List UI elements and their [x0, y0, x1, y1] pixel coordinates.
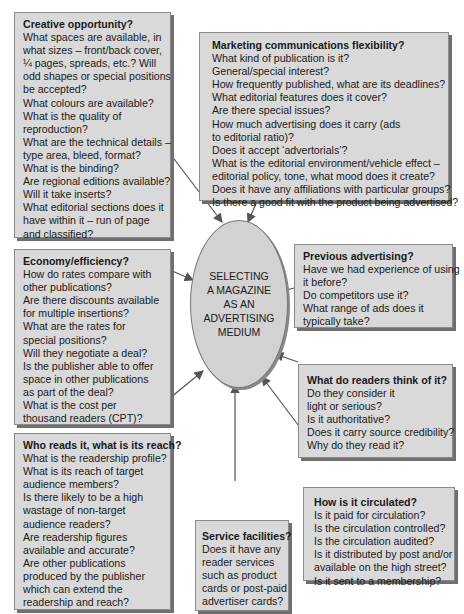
box-line: special positions?: [23, 334, 164, 347]
box-line: Is there a good fit with the product bei…: [212, 196, 442, 209]
box-title: Service facilities?: [202, 530, 282, 543]
box-line: Is it distributed by post and/or: [314, 548, 448, 561]
box-line: What editorial sections does it: [23, 201, 164, 214]
box-line: available and accurate?: [23, 544, 164, 557]
box-line: What is the readership profile?: [23, 452, 164, 465]
box-line: thousand readers (CPT)?: [23, 412, 164, 425]
box-line: Does it have any affiliations with parti…: [212, 183, 442, 196]
box-line: What is the cost per: [23, 399, 164, 412]
box-line: What kind of publication is it?: [212, 52, 442, 65]
box-line: Will they negotiate a deal?: [23, 347, 164, 360]
box-line: Is it sent to a membership?: [314, 575, 448, 588]
previous-advertising-box: Previous advertising? Have we had experi…: [294, 244, 453, 328]
box-line: type area, bleed, format?: [23, 149, 164, 162]
box-line: What is the editorial environment/vehicl…: [212, 157, 442, 170]
box-line: Have we had experience of using: [303, 263, 446, 276]
box-line: Is there likely to be a high: [23, 491, 164, 504]
box-line: What is the binding?: [23, 162, 164, 175]
box-line: it before?: [303, 276, 446, 289]
box-line: Does it carry source credibility?: [307, 426, 446, 439]
box-line: odd shapes or special positions: [23, 70, 164, 83]
box-line: Do they consider it: [307, 387, 446, 400]
box-line: which can extend the: [23, 583, 164, 596]
box-line: and classified?: [23, 228, 164, 241]
readership-reach-box: Who reads it, what is its reach? What is…: [14, 433, 171, 610]
box-line: Will it take inserts?: [23, 188, 164, 201]
economy-efficiency-box: Economy/efficiency? How do rates compare…: [14, 249, 171, 425]
box-title: Marketing communications flexibility?: [212, 39, 442, 52]
box-line: editorial policy, tone, what mood does i…: [212, 170, 442, 183]
box-line: for multiple insertions?: [23, 307, 164, 320]
box-line: Is it authoritative?: [307, 413, 446, 426]
box-line: be accepted?: [23, 83, 164, 96]
box-line: Is the publisher able to offer: [23, 360, 164, 373]
box-line: General/special interest?: [212, 65, 442, 78]
box-line: Are other publications: [23, 557, 164, 570]
center-line: SELECTING: [209, 269, 269, 283]
box-line: Does it have any: [202, 543, 282, 556]
box-title: How is it circulated?: [314, 496, 448, 509]
readers-opinion-box: What do readers think of it? Do they con…: [298, 364, 453, 458]
box-title: Creative opportunity?: [23, 18, 164, 31]
box-line: Are regional editions available?: [23, 175, 164, 188]
box-line: cards or post-paid: [202, 582, 282, 595]
box-line: typically take?: [303, 315, 446, 328]
box-line: Is the circulation audited?: [314, 535, 448, 548]
circulation-box: How is it circulated? Is it paid for cir…: [303, 487, 455, 581]
central-topic-ellipse: SELECTING A MAGAZINE AS AN ADVERTISING M…: [190, 220, 288, 388]
box-line: What spaces are available, in: [23, 31, 164, 44]
box-line: to editorial ratio)?: [212, 131, 442, 144]
center-line: ADVERTISING: [204, 311, 275, 325]
box-line: available on the high street?: [314, 561, 448, 574]
box-line: What are the technical details –: [23, 136, 164, 149]
box-line: What are the rates for: [23, 320, 164, 333]
creative-opportunity-box: Creative opportunity? What spaces are av…: [14, 12, 171, 238]
box-line: ¼ pages, spreads, etc.? Will: [23, 57, 164, 70]
box-line: Is it paid for circulation?: [314, 509, 448, 522]
box-line: readership and reach?: [23, 596, 164, 609]
box-line: have within it – run of page: [23, 214, 164, 227]
box-line: Are there discounts available: [23, 294, 164, 307]
box-line: Are there special issues?: [212, 104, 442, 117]
box-line: What range of ads does it: [303, 302, 446, 315]
box-line: such as product: [202, 569, 282, 582]
box-line: What colours are available?: [23, 97, 164, 110]
box-title: What do readers think of it?: [307, 374, 446, 387]
box-line: Do competitors use it?: [303, 289, 446, 302]
box-line: reproduction?: [23, 123, 164, 136]
box-line: What is the quality of: [23, 110, 164, 123]
box-line: How frequently published, what are its d…: [212, 78, 442, 91]
box-line: How do rates compare with: [23, 268, 164, 281]
box-line: reader services: [202, 556, 282, 569]
box-line: What is its reach of target: [23, 465, 164, 478]
box-title: Economy/efficiency?: [23, 255, 164, 268]
box-line: Is the circulation controlled?: [314, 522, 448, 535]
center-line: A MAGAZINE: [207, 283, 271, 297]
marketing-flexibility-box: Marketing communications flexibility? Wh…: [199, 32, 449, 201]
box-line: other publications?: [23, 281, 164, 294]
service-facilities-box: Service facilities? Does it have any rea…: [195, 520, 289, 611]
box-line: produced by the publisher: [23, 570, 164, 583]
center-line: MEDIUM: [218, 325, 261, 339]
box-line: Why do they read it?: [307, 439, 446, 452]
box-line: light or serious?: [307, 400, 446, 413]
box-line: wastage of non-target: [23, 504, 164, 517]
box-line: What editorial features does it cover?: [212, 91, 442, 104]
box-line: How much advertising does it carry (ads: [212, 118, 442, 131]
box-line: advertiser cards?: [202, 595, 282, 608]
center-line: AS AN: [224, 297, 255, 311]
box-line: audience members?: [23, 478, 164, 491]
box-line: what sizes – front/back cover,: [23, 44, 164, 57]
box-line: Does it accept ‘advertorials’?: [212, 144, 442, 157]
box-title: Previous advertising?: [303, 250, 446, 263]
box-title: Who reads it, what is its reach?: [23, 439, 164, 452]
box-line: as part of the deal?: [23, 386, 164, 399]
box-line: Are readership figures: [23, 531, 164, 544]
box-line: audience readers?: [23, 518, 164, 531]
box-line: space in other publications: [23, 373, 164, 386]
